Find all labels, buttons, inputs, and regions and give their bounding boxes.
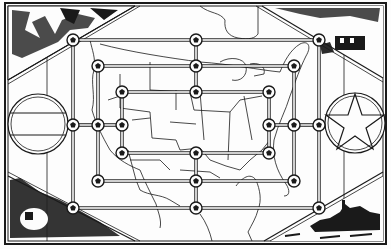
board-point-e3[interactable] (263, 147, 275, 159)
board-point-d1[interactable] (67, 119, 79, 131)
board-point-b1[interactable] (92, 60, 104, 72)
board-point-a1[interactable] (67, 34, 79, 46)
board-point-g2[interactable] (190, 202, 202, 214)
board-point-g3[interactable] (313, 202, 325, 214)
board-point-b2[interactable] (190, 60, 202, 72)
board-point-g1[interactable] (67, 202, 79, 214)
board-point-f1[interactable] (92, 175, 104, 187)
board-point-d5[interactable] (288, 119, 300, 131)
right-emblem (325, 93, 385, 153)
board-point-f2[interactable] (190, 175, 202, 187)
board-canvas (0, 0, 391, 249)
board-point-d3[interactable] (116, 119, 128, 131)
board-point-c1[interactable] (116, 86, 128, 98)
board-point-c3[interactable] (263, 86, 275, 98)
board-point-a3[interactable] (313, 34, 325, 46)
board-point-c2[interactable] (190, 86, 202, 98)
board-point-d6[interactable] (313, 119, 325, 131)
board-point-d2[interactable] (92, 119, 104, 131)
board-point-f3[interactable] (288, 175, 300, 187)
board-point-e1[interactable] (116, 147, 128, 159)
game-board: Mill board on United States map (0, 0, 391, 249)
left-emblem (8, 94, 68, 154)
board-point-e2[interactable] (190, 147, 202, 159)
board-point-d4[interactable] (263, 119, 275, 131)
board-point-b3[interactable] (288, 60, 300, 72)
board-point-a2[interactable] (190, 34, 202, 46)
